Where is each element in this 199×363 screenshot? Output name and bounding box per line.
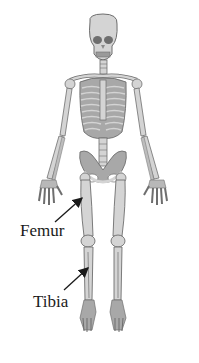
skeleton-illustration <box>0 0 199 363</box>
left-foot <box>80 300 96 332</box>
femur-label: Femur <box>20 222 64 239</box>
skeleton-diagram: Femur Tibia <box>0 0 199 363</box>
sternum <box>100 80 106 120</box>
right-leg <box>110 173 126 332</box>
tibia-label: Tibia <box>33 293 68 310</box>
right-hand <box>144 180 167 205</box>
right-arm <box>134 88 167 205</box>
humerus <box>60 88 72 136</box>
neck-vertebrae <box>100 60 107 74</box>
femur-bone <box>81 180 93 236</box>
right-foot <box>110 300 126 332</box>
left-hand <box>39 180 62 205</box>
left-arm <box>39 88 72 205</box>
femur-arrow <box>55 198 82 222</box>
left-leg <box>80 173 96 332</box>
knee <box>81 235 95 247</box>
skull <box>90 14 118 60</box>
spine <box>99 138 107 166</box>
ribcage <box>80 78 126 139</box>
